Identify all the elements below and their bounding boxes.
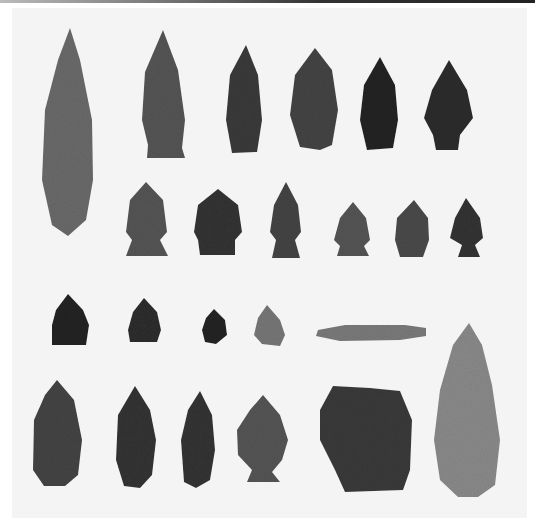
artifacts-illustration — [0, 0, 535, 523]
artifact-dark-serrated — [360, 57, 398, 150]
artifact-narrow-leaf-2 — [181, 391, 215, 488]
artifact-leaf-biface — [116, 386, 156, 488]
artifact-scraper — [320, 386, 412, 492]
artifact-triangular — [395, 200, 429, 257]
artifact-drill — [316, 325, 426, 341]
artifact-small-light — [254, 305, 285, 346]
artifact-corner-notched — [424, 60, 473, 150]
artifact-ovate-leaf — [290, 48, 338, 150]
artifact-tiny — [202, 309, 227, 344]
artifact-stemmed-point — [142, 30, 185, 158]
artifact-large-light — [434, 323, 500, 497]
artifact-corner-notched-2 — [194, 189, 242, 255]
artifact-ovate-biface — [33, 380, 82, 486]
artifact-narrow-leaf — [226, 45, 262, 153]
artifact-side-notched-1 — [126, 182, 168, 256]
artifact-side-notched-2 — [270, 182, 301, 258]
artifact-corner-notched-3 — [237, 395, 288, 482]
artifact-small-dark-2 — [128, 298, 161, 342]
artifact-long-blade — [42, 28, 93, 236]
artifact-small-dark-1 — [52, 294, 89, 345]
artifact-small-side-notched — [334, 202, 370, 256]
artifact-small-notched — [450, 198, 483, 257]
